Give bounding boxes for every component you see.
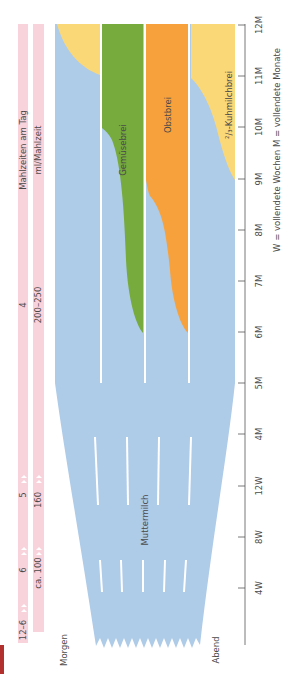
ml-value-12w: 160 — [33, 492, 43, 508]
ml-value-4w: ca. 100 — [33, 557, 43, 589]
tick-6m: 6M — [254, 326, 264, 339]
meals-value-12w: 5 — [18, 492, 28, 497]
tick-4m: 4M — [254, 428, 264, 441]
tick-4w: 4W — [254, 580, 264, 594]
meals-value-4w: 6 — [18, 567, 28, 572]
obstbrei-label: Obstbrei — [163, 97, 173, 133]
meals-row-title: Mahlzeiten am Tag — [18, 110, 28, 190]
feeding-chart: 12M 11M 10M 9M 8M 7M 6M 5M 4M 12W 8W 4W … — [0, 0, 287, 674]
tick-11m: 11M — [254, 67, 264, 85]
axis-note: W = vollendete Wochen M = vollendete Mon… — [272, 48, 282, 252]
morning-label: Morgen — [59, 634, 69, 666]
gemuesebrei-label: Gemüsebrei — [118, 124, 128, 175]
tick-7m: 7M — [254, 275, 264, 288]
ml-per-meal-bar — [33, 24, 44, 632]
meals-value-5m: 4 — [18, 302, 28, 307]
tick-10m: 10M — [254, 118, 264, 136]
tick-12w: 12W — [254, 476, 264, 496]
tick-8m: 8M — [254, 224, 264, 237]
ml-value-5m: 200–250 — [33, 287, 43, 324]
evening-label: Abend — [211, 636, 221, 663]
tick-labels: 12M 11M 10M 9M 8M 7M 6M 5M 4M 12W 8W 4W — [254, 16, 264, 595]
ml-row-title: ml/Mahlzeit — [33, 125, 43, 175]
tick-8w: 8W — [254, 529, 264, 543]
tick-9m: 9M — [254, 173, 264, 186]
muttermilch-label: Muttermilch — [140, 494, 150, 545]
time-axis — [238, 24, 245, 645]
page-marker — [0, 645, 4, 674]
meals-value-newborn: 12–6 — [18, 620, 28, 640]
tick-5m: 5M — [254, 377, 264, 390]
tick-12m: 12M — [254, 16, 264, 34]
kuhmilchbrei-label: ²/₃-Kuhmilchbrei — [224, 71, 234, 139]
